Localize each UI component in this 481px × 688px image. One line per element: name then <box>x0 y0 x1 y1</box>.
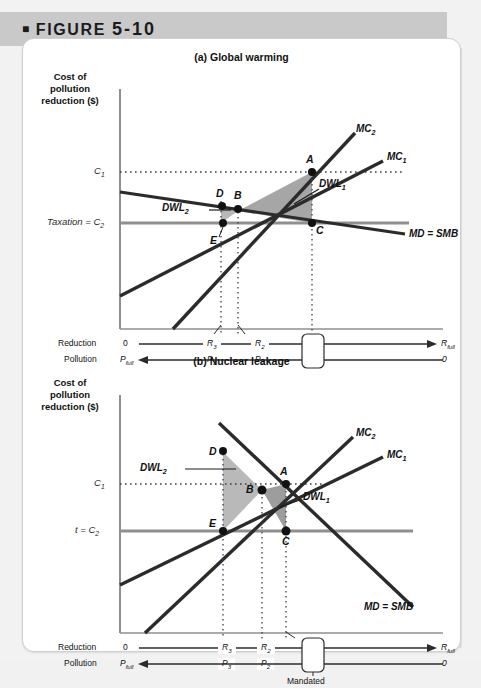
panel-a-label-A: A <box>306 153 314 165</box>
panel-b-label-E: E <box>209 517 216 529</box>
panel-b-c1-label: C1 <box>94 477 105 490</box>
panel-b-mc2-curve <box>145 437 353 633</box>
panel-b-mc1-label: MC1 <box>387 449 407 463</box>
figure-label: FIGURE <box>36 21 106 38</box>
figure-number: 5-10 <box>112 19 156 39</box>
panel-a-label-E: E <box>210 234 217 246</box>
figure-title: ■FIGURE 5-10 <box>22 19 156 40</box>
panel-a-point-B <box>234 205 242 213</box>
panel-a-e-leader <box>219 227 223 237</box>
panel-a-mc2-label: MC2 <box>356 123 376 137</box>
panel-a-label-C: C <box>316 224 324 236</box>
panel-b-pollution-arrow <box>138 660 148 668</box>
panel-a-label-D: D <box>216 187 224 199</box>
panel-b-md-smb-label: MD = SMB <box>364 601 413 612</box>
panel-b-mc2-label: MC2 <box>356 427 376 441</box>
panel-b-dwl2-label: DWL2 <box>140 462 167 476</box>
panel-a-point-E <box>219 219 227 227</box>
panel-a-taxation-label: Taxation = C2 <box>47 216 104 229</box>
panel-a-label-B: B <box>234 189 242 201</box>
panel-a-mc2-curve <box>173 133 355 329</box>
panel-a-dwl2-label: DWL2 <box>162 202 189 216</box>
bullet-icon: ■ <box>22 22 31 36</box>
panel-global-warming: (a) Global warming Cost of pollution red… <box>23 41 460 347</box>
panel-b-taxation-label: t = C2 <box>75 524 99 537</box>
panel-a-dwl1-label: DWL1 <box>319 178 346 192</box>
panel-a-point-C <box>308 219 316 227</box>
panel-a-point-A <box>308 168 316 176</box>
panel-b-label-A: A <box>280 465 288 477</box>
figure-card: (a) Global warming Cost of pollution red… <box>22 38 461 652</box>
panel-b-point-A <box>282 480 290 488</box>
panel-a-point-D <box>218 202 226 210</box>
panel-b-label-C: C <box>282 535 290 547</box>
panel-a-md-smb-label: MD = SMB <box>409 228 458 239</box>
panel-a-mc1-label: MC1 <box>387 151 407 165</box>
panel-b-mc1-curve <box>120 457 383 585</box>
panel-b-point-B <box>258 486 267 495</box>
panel-b-dwl1-label: DWL1 <box>303 491 330 505</box>
panel-b-boxed-tick <box>302 638 324 672</box>
panel-b-point-D <box>219 447 227 455</box>
panel-b-label-B: B <box>246 483 254 495</box>
panel-b-label-D: D <box>209 445 217 457</box>
panel-b-md-smb-curve <box>219 423 413 607</box>
panel-b-axis-rows <box>23 638 460 688</box>
panel-nuclear-leakage: (b) Nuclear leakage Cost of pollution re… <box>23 345 460 651</box>
panel-b-point-E <box>219 527 227 535</box>
panel-a-c1-label: C1 <box>94 165 105 178</box>
